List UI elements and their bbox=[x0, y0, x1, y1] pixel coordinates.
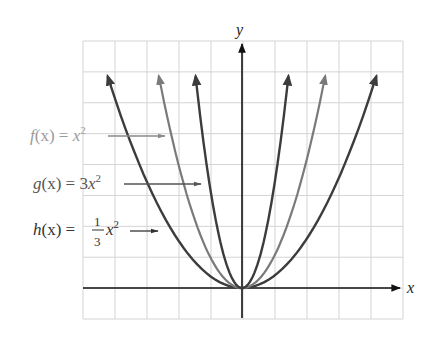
x-axis-label: x bbox=[406, 279, 414, 296]
svg-text:1: 1 bbox=[94, 214, 101, 229]
svg-text:f(x) = x2: f(x) = x2 bbox=[30, 124, 86, 145]
grid bbox=[83, 41, 403, 319]
svg-text:x2: x2 bbox=[105, 218, 119, 239]
label-f: f(x) = x2 bbox=[30, 124, 165, 145]
y-axis-label: y bbox=[234, 21, 244, 39]
svg-text:g(x) = 3x2: g(x) = 3x2 bbox=[33, 172, 101, 193]
parabola-graph: x y f(x) = x2 g(x) = 3x2 h(x) = 1 3 x2 bbox=[0, 0, 443, 339]
svg-text:h(x) =: h(x) = bbox=[33, 220, 75, 239]
svg-text:3: 3 bbox=[94, 234, 101, 249]
label-g: g(x) = 3x2 bbox=[33, 172, 201, 193]
label-h: h(x) = 1 3 x2 bbox=[33, 214, 158, 249]
